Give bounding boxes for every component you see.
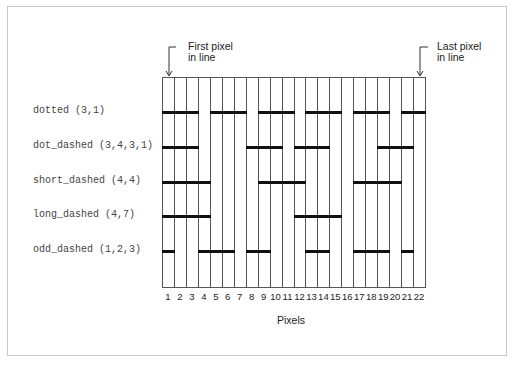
tick-label: 2 (174, 291, 186, 302)
dash-segment (246, 146, 283, 149)
dash-segment (162, 250, 175, 253)
dash-segment (401, 111, 426, 114)
last-pixel-annotation: Last pixel in line (437, 41, 481, 63)
row-label: dotted (3,1) (33, 105, 105, 116)
tick-label: 7 (234, 291, 246, 302)
tick-label: 16 (341, 291, 353, 302)
grid-column-line (329, 77, 330, 287)
first-pixel-arrow-icon (166, 47, 176, 76)
grid-column-line (341, 77, 342, 287)
axis-title: Pixels (277, 314, 305, 326)
row-label: dot_dashed (3,4,3,1) (33, 140, 153, 151)
tick-label: 14 (317, 291, 329, 302)
dash-segment (353, 111, 390, 114)
dash-segment (294, 146, 330, 149)
grid-column-line (234, 77, 235, 287)
tick-label: 8 (246, 291, 258, 302)
tick-label: 20 (389, 291, 401, 302)
tick-label: 18 (365, 291, 377, 302)
tick-label: 22 (413, 291, 425, 302)
pixel-grid (162, 77, 425, 287)
first-pixel-annotation: First pixel in line (188, 41, 233, 63)
tick-label: 17 (353, 291, 365, 302)
dash-segment (353, 181, 402, 184)
dash-segment (401, 250, 414, 253)
row-label: short_dashed (4,4) (33, 175, 141, 186)
tick-label: 11 (282, 291, 294, 302)
dash-segment (162, 215, 211, 218)
grid-border-line (162, 77, 426, 78)
dash-segment (305, 250, 330, 253)
row-label: long_dashed (4,7) (33, 209, 135, 220)
dash-segment (377, 146, 414, 149)
dash-segment (162, 146, 199, 149)
grid-column-line (222, 77, 223, 287)
tick-label: 6 (222, 291, 234, 302)
grid-column-line (425, 77, 426, 287)
tick-label: 10 (270, 291, 282, 302)
dash-segment (162, 111, 199, 114)
dash-segment (305, 111, 342, 114)
grid-border-line (162, 287, 426, 288)
dash-segment (258, 111, 295, 114)
dash-segment (258, 181, 306, 184)
tick-label: 9 (258, 291, 270, 302)
grid-column-line (413, 77, 414, 287)
row-label: odd_dashed (1,2,3) (33, 244, 141, 255)
tick-label: 4 (198, 291, 210, 302)
first-pixel-text-line2: in line (188, 52, 233, 63)
tick-label: 21 (401, 291, 413, 302)
tick-label: 3 (186, 291, 198, 302)
tick-label: 13 (305, 291, 317, 302)
dash-segment (162, 181, 211, 184)
tick-label: 5 (210, 291, 222, 302)
dash-segment (246, 250, 271, 253)
dash-segment (294, 215, 342, 218)
tick-label: 1 (162, 291, 174, 302)
last-pixel-arrow-icon (417, 47, 428, 76)
dash-segment (198, 250, 235, 253)
grid-column-line (317, 77, 318, 287)
dash-segment (353, 250, 390, 253)
dash-segment (210, 111, 247, 114)
tick-label: 19 (377, 291, 389, 302)
tick-label: 12 (294, 291, 306, 302)
grid-column-line (246, 77, 247, 287)
tick-label: 15 (329, 291, 341, 302)
last-pixel-text-line2: in line (437, 52, 481, 63)
